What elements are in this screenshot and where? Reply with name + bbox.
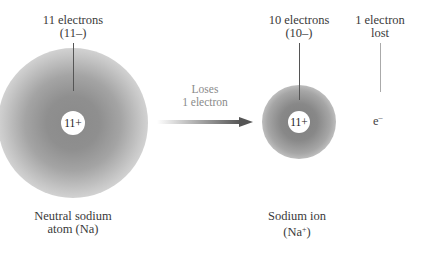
process-label: Loses 1 electron [165,83,245,109]
arrow-right-icon [157,117,253,127]
caption-neutral: Neutral sodium atom (Na) [23,210,123,236]
caption-line1: Sodium ion [257,210,337,223]
leader-line-neutral [73,43,74,91]
nucleus-neutral: 11+ [61,111,85,135]
caption-ion: Sodium ion (Na+) [257,210,337,239]
electron-charge-text: (10–) [259,27,339,40]
process-label-line2: 1 electron [165,96,245,109]
leader-line-lost-electron [380,43,381,92]
nucleus-charge-neutral: 11+ [64,117,82,129]
ion-formula-close: ) [307,225,311,239]
leader-line-ion [299,43,300,100]
lost-electron-label: 1 electron lost [345,14,415,40]
nucleus-charge-ion: 11+ [290,116,308,128]
electron-symbol: e– [373,113,383,129]
process-label-line1: Loses [165,83,245,96]
ion-formula: (Na [283,225,302,239]
electron-count-label-neutral: 11 electrons (11–) [33,14,113,40]
lost-electron-line2: lost [345,27,415,40]
caption-line2: atom (Na) [23,223,123,236]
electron-charge-text: (11–) [33,27,113,40]
electron-count-label-ion: 10 electrons (10–) [259,14,339,40]
electron-charge-superscript: – [379,113,383,122]
nucleus-ion: 11+ [288,111,310,133]
caption-line2: (Na+) [257,223,337,239]
